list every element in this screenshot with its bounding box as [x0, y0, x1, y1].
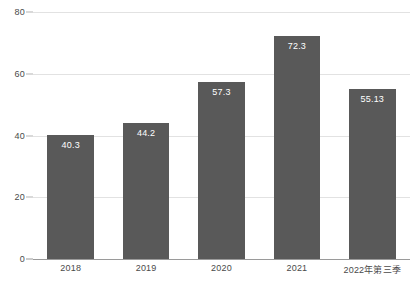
bars: 40.344.257.372.355.13 — [33, 12, 410, 259]
y-tick-label: 40 — [15, 131, 25, 141]
y-tick-label: 20 — [15, 192, 25, 202]
y-tick-mark — [26, 259, 33, 260]
bar-chart: 020406080 40.344.257.372.355.13 20182019… — [0, 0, 420, 285]
x-tick-label: 2022年第三季 — [335, 263, 410, 276]
x-tick-label: 2021 — [259, 263, 334, 273]
bar: 55.13 — [349, 89, 396, 259]
x-tick-label: 2018 — [33, 263, 108, 273]
y-axis: 020406080 — [0, 12, 25, 259]
y-tick-label: 0 — [20, 254, 25, 264]
y-tick-mark — [26, 135, 33, 136]
y-tick-mark — [26, 73, 33, 74]
y-tick-label: 60 — [15, 69, 25, 79]
bar: 44.2 — [123, 123, 170, 259]
x-tick-label: 2019 — [108, 263, 183, 273]
bar-value-label: 44.2 — [123, 128, 170, 138]
bar-value-label: 40.3 — [47, 140, 94, 150]
x-tick-label: 2020 — [184, 263, 259, 273]
axis-baseline — [33, 259, 410, 260]
bar-value-label: 72.3 — [274, 41, 321, 51]
bar: 72.3 — [274, 36, 321, 259]
y-tick-mark — [26, 12, 33, 13]
bar: 40.3 — [47, 135, 94, 259]
y-tick-mark — [26, 197, 33, 198]
bar-value-label: 55.13 — [349, 94, 396, 104]
x-axis: 20182019202020212022年第三季 — [33, 263, 410, 283]
bar: 57.3 — [198, 82, 245, 259]
plot-area: 40.344.257.372.355.13 — [33, 12, 410, 259]
y-tick-label: 80 — [15, 7, 25, 17]
bar-value-label: 57.3 — [198, 87, 245, 97]
